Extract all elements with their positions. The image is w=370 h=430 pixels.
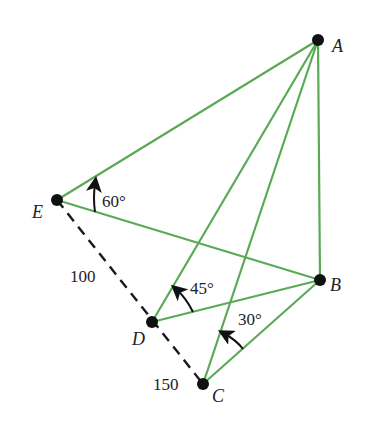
distance-label-150: 150 bbox=[153, 375, 179, 394]
geometry-diagram: A B C D E 60° 45° 30° 100 150 bbox=[0, 0, 370, 430]
point-B bbox=[314, 274, 326, 286]
label-A: A bbox=[331, 36, 344, 56]
angle-label-30: 30° bbox=[238, 310, 262, 329]
edge-A-D bbox=[152, 40, 318, 322]
edge-A-E bbox=[57, 40, 318, 200]
dashed-E-C bbox=[57, 200, 203, 384]
angle-label-45: 45° bbox=[190, 279, 214, 298]
point-D bbox=[146, 316, 158, 328]
distance-label-100: 100 bbox=[70, 267, 96, 286]
label-C: C bbox=[212, 386, 225, 406]
label-E: E bbox=[31, 202, 43, 222]
edge-E-B bbox=[57, 200, 320, 280]
angle-label-60: 60° bbox=[102, 192, 126, 211]
angle-arc-E bbox=[94, 184, 95, 212]
angle-arc-C bbox=[225, 334, 243, 349]
point-E bbox=[51, 194, 63, 206]
label-D: D bbox=[131, 329, 145, 349]
point-A bbox=[312, 34, 324, 46]
label-B: B bbox=[330, 275, 341, 295]
edge-A-B bbox=[318, 40, 320, 280]
point-C bbox=[197, 378, 209, 390]
